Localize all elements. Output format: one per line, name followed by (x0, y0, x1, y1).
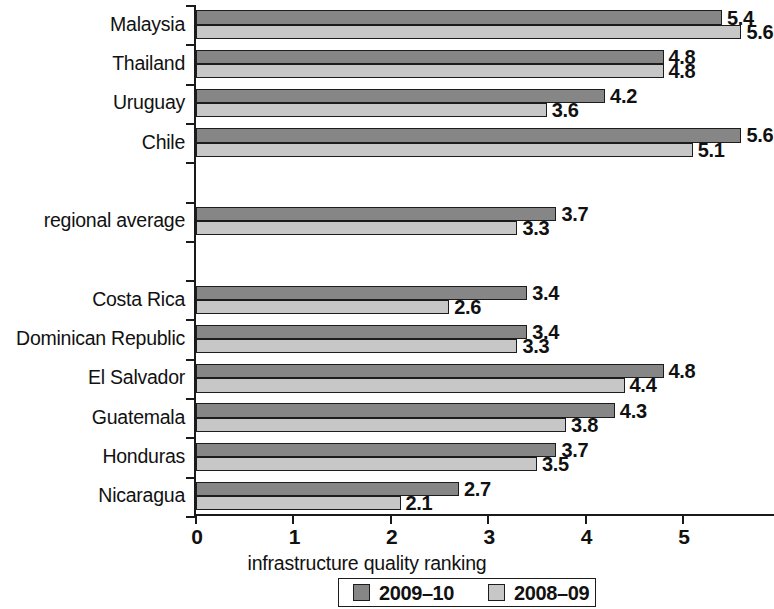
legend-label-series-1: 2008–09 (514, 583, 589, 603)
x-axis-title: infrastructure quality ranking (0, 552, 774, 575)
x-axis-tick (585, 516, 587, 524)
bar-chile-series-1 (196, 143, 693, 157)
bar-honduras-series-0 (196, 443, 556, 457)
legend-label-series-0: 2009–10 (379, 583, 454, 603)
bar-value-label: 2.1 (406, 493, 433, 513)
bar-malaysia-series-1 (196, 25, 741, 39)
legend-item-series-0: 2009–10 (353, 579, 454, 606)
bar-nicaragua-series-1 (196, 496, 401, 510)
y-axis-category-label: Guatemala (92, 408, 185, 428)
bar-value-label: 4.8 (669, 61, 696, 81)
bar-uruguay-series-0 (196, 89, 605, 103)
y-axis-tick (186, 5, 195, 7)
bar-value-label: 5.1 (698, 140, 725, 160)
y-axis-tick (186, 359, 195, 361)
x-axis-tick (292, 516, 294, 524)
legend-swatch-icon-series-0 (353, 584, 370, 601)
x-axis-tick (195, 516, 197, 524)
y-axis-category-label: Malaysia (110, 15, 185, 35)
bar-value-label: 5.6 (746, 22, 773, 42)
bar-el-salvador-series-1 (196, 378, 625, 392)
y-axis-category-label: Dominican Republic (16, 329, 185, 349)
bar-regional-average-series-0 (196, 207, 556, 221)
infrastructure-quality-bar-chart: MalaysiaThailandUruguayChileregional ave… (0, 0, 774, 609)
bar-value-label: 4.2 (610, 86, 637, 106)
x-axis-tick (487, 516, 489, 524)
y-axis-category-label: Honduras (102, 447, 185, 467)
y-axis-category-label: regional average (44, 211, 185, 231)
bar-regional-average-series-1 (196, 221, 517, 235)
x-axis-tick-label: 1 (274, 525, 314, 549)
bar-value-label: 4.8 (669, 361, 696, 381)
bar-value-label: 3.3 (522, 218, 549, 238)
y-axis-tick (186, 162, 195, 164)
x-axis-line (194, 514, 774, 516)
bar-honduras-series-1 (196, 457, 537, 471)
x-axis-tick-label: 3 (469, 525, 509, 549)
bar-value-label: 3.7 (561, 204, 588, 224)
y-axis-category-label: Costa Rica (92, 290, 185, 310)
y-axis-tick (186, 319, 195, 321)
y-axis-tick (186, 477, 195, 479)
y-axis-tick (186, 398, 195, 400)
x-axis-tick-label: 4 (567, 525, 607, 549)
bar-chile-series-0 (196, 128, 741, 142)
bar-costa-rica-series-1 (196, 300, 449, 314)
y-axis-category-label: Chile (142, 133, 185, 153)
bar-value-label: 4.3 (620, 401, 647, 421)
x-axis-title-text: infrastructure quality ranking (248, 552, 487, 574)
x-axis-tick (390, 516, 392, 524)
x-axis-tick-label: 2 (372, 525, 412, 549)
legend-swatch-icon-series-1 (488, 584, 505, 601)
y-axis-category-label: Nicaragua (98, 486, 185, 506)
bar-value-label: 3.4 (532, 283, 559, 303)
chart-legend: 2009–10 2008–09 (338, 578, 596, 607)
bar-value-label: 5.6 (746, 125, 773, 145)
y-axis-category-label: Uruguay (113, 93, 185, 113)
bar-thailand-series-0 (196, 50, 664, 64)
legend-item-series-1: 2008–09 (488, 579, 589, 606)
bar-guatemala-series-1 (196, 418, 566, 432)
bar-guatemala-series-0 (196, 403, 615, 417)
bar-value-label: 3.3 (522, 336, 549, 356)
y-axis-tick (186, 516, 195, 518)
bar-value-label: 3.8 (571, 415, 598, 435)
y-axis-tick (186, 123, 195, 125)
bar-dominican-republic-series-0 (196, 325, 527, 339)
bar-el-salvador-series-0 (196, 364, 664, 378)
y-axis-tick (186, 44, 195, 46)
bar-malaysia-series-0 (196, 10, 722, 24)
y-axis-tick (186, 202, 195, 204)
bar-thailand-series-1 (196, 64, 664, 78)
bar-uruguay-series-1 (196, 103, 547, 117)
x-axis-tick-label: 0 (177, 525, 217, 549)
y-axis-tick (186, 437, 195, 439)
y-axis-category-label: Thailand (112, 54, 185, 74)
x-axis-tick (682, 516, 684, 524)
bar-value-label: 4.4 (630, 375, 657, 395)
bar-value-label: 2.6 (454, 297, 481, 317)
y-axis-category-label: El Salvador (88, 368, 185, 388)
bar-value-label: 3.6 (552, 100, 579, 120)
bar-dominican-republic-series-1 (196, 339, 517, 353)
y-axis-tick (186, 84, 195, 86)
y-axis-tick (186, 280, 195, 282)
bar-value-label: 3.5 (542, 454, 569, 474)
y-axis-tick (186, 241, 195, 243)
x-axis-tick-label: 5 (664, 525, 704, 549)
bar-value-label: 2.7 (464, 479, 491, 499)
y-axis-line (194, 5, 196, 516)
